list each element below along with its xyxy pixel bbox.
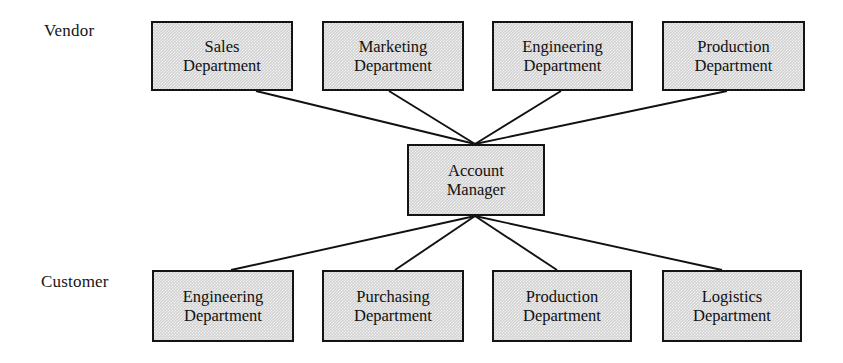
- vendor-sales-line1: Sales: [205, 37, 240, 56]
- vendor-engineering-line1: Engineering: [522, 37, 603, 56]
- customer-logistics-line2: Department: [693, 306, 771, 325]
- account-manager-line2: Manager: [447, 180, 506, 199]
- edge-hub-engineering: [231, 216, 475, 270]
- vendor-production-box[interactable]: ProductionDepartment: [662, 21, 805, 91]
- vendor-engineering-line2: Department: [524, 56, 602, 75]
- vendor-sales-line2: Department: [183, 56, 261, 75]
- customer-logistics-line1: Logistics: [702, 287, 763, 306]
- customer-engineering-box[interactable]: EngineeringDepartment: [152, 270, 294, 342]
- vendor-production-line2: Department: [695, 56, 773, 75]
- edge-marketing-hub: [389, 91, 475, 144]
- vendor-marketing-line2: Department: [354, 56, 432, 75]
- account-manager-line1: Account: [448, 161, 504, 180]
- customer-row-label: Customer: [41, 273, 109, 290]
- customer-purchasing-line1: Purchasing: [356, 287, 429, 306]
- edge-hub-purchasing: [395, 216, 475, 270]
- vendor-engineering-box[interactable]: EngineeringDepartment: [492, 21, 633, 91]
- customer-engineering-line2: Department: [184, 306, 262, 325]
- customer-purchasing-box[interactable]: PurchasingDepartment: [322, 270, 464, 342]
- diagram-canvas: Vendor Customer SalesDepartmentMarketing…: [0, 0, 843, 363]
- customer-purchasing-line2: Department: [354, 306, 432, 325]
- vendor-production-line1: Production: [697, 37, 769, 56]
- vendor-marketing-box[interactable]: MarketingDepartment: [322, 21, 464, 91]
- edge-engineering-hub: [475, 91, 561, 144]
- vendor-marketing-line1: Marketing: [359, 37, 428, 56]
- edge-sales-hub: [256, 91, 475, 144]
- vendor-row-label: Vendor: [44, 22, 94, 39]
- customer-engineering-line1: Engineering: [183, 287, 264, 306]
- customer-production-box[interactable]: ProductionDepartment: [492, 270, 632, 342]
- edge-production-hub: [475, 91, 727, 144]
- edge-hub-production: [475, 216, 557, 270]
- edge-hub-logistics: [475, 216, 722, 270]
- customer-logistics-box[interactable]: LogisticsDepartment: [662, 270, 802, 342]
- customer-production-line2: Department: [523, 306, 601, 325]
- customer-production-line1: Production: [526, 287, 598, 306]
- vendor-sales-box[interactable]: SalesDepartment: [151, 21, 293, 91]
- account-manager-box[interactable]: AccountManager: [407, 144, 545, 216]
